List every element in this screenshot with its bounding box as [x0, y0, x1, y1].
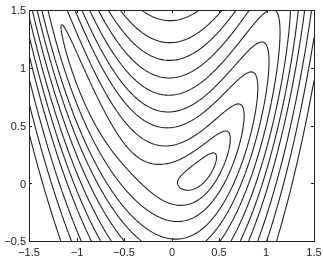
x-tick-label: 1 [263, 247, 269, 258]
y-tick-label: 1 [2, 63, 26, 74]
x-tick-label: −1.5 [18, 247, 40, 258]
x-tick-label: 1.5 [306, 247, 321, 258]
y-tick-label: 0 [2, 179, 26, 190]
contour-plot [0, 0, 323, 264]
y-tick-label: 1.5 [2, 5, 26, 16]
x-tick-label: −1 [71, 247, 84, 258]
y-tick-label: 0.5 [2, 121, 26, 132]
x-tick-label: 0 [169, 247, 175, 258]
x-tick-label: 0.5 [211, 247, 226, 258]
y-tick-label: −0.5 [2, 236, 26, 247]
x-tick-label: −0.5 [113, 247, 135, 258]
